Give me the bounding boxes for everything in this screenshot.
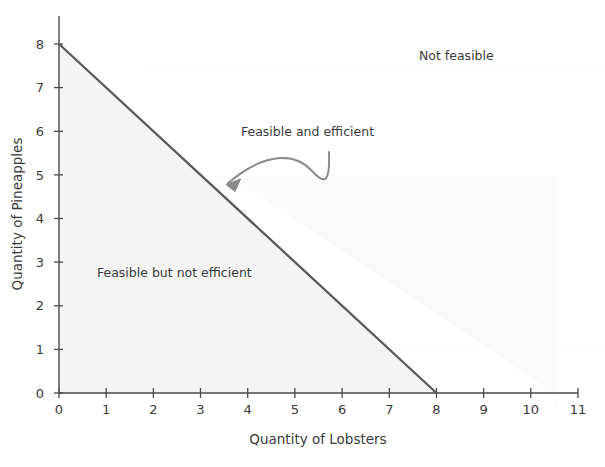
y-tick-label-7: 7	[36, 80, 44, 95]
x-tick-label-6: 6	[338, 402, 346, 417]
y-axis-title: Quantity of Pineapples	[9, 138, 25, 291]
x-tick-label-11: 11	[570, 402, 587, 417]
x-tick-label-9: 9	[479, 402, 487, 417]
y-tick-label-3: 3	[36, 255, 44, 270]
y-tick-label-5: 5	[36, 168, 44, 183]
y-tick-label-0: 0	[36, 386, 44, 401]
feasible-and-efficient-label: Feasible and efficient	[241, 124, 374, 139]
x-tick-label-10: 10	[523, 402, 540, 417]
not-feasible-label: Not feasible	[419, 48, 494, 63]
x-tick-label-0: 0	[55, 402, 63, 417]
x-tick-label-3: 3	[196, 402, 204, 417]
svg-text:8: 8	[335, 230, 350, 250]
y-tick-label-8: 8	[36, 37, 44, 52]
x-tick-label-5: 5	[291, 402, 299, 417]
feasible-but-not-efficient-label: Feasible but not efficient	[97, 265, 252, 280]
production-possibilities-frontier-chart: 8	[0, 0, 605, 467]
x-axis-title: Quantity of Lobsters	[249, 431, 386, 447]
y-tick-label-4: 4	[36, 211, 44, 226]
x-tick-label-1: 1	[102, 402, 110, 417]
chart-canvas: 8	[0, 0, 605, 467]
y-tick-label-2: 2	[36, 298, 44, 313]
y-tick-label-1: 1	[36, 342, 44, 357]
x-tick-label-4: 4	[244, 402, 252, 417]
x-tick-label-7: 7	[385, 402, 393, 417]
x-tick-label-2: 2	[149, 402, 157, 417]
x-tick-label-8: 8	[432, 402, 440, 417]
y-tick-label-6: 6	[36, 124, 44, 139]
